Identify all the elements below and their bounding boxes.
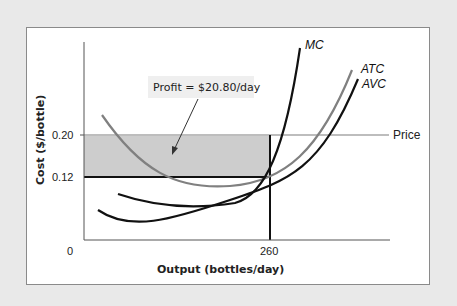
mc-curve bbox=[118, 48, 300, 206]
price-label: Price bbox=[393, 128, 421, 142]
x-tick-label-zero: 0 bbox=[67, 245, 73, 257]
x-axis-title: Output (bottles/day) bbox=[157, 263, 284, 276]
atc-label: ATC bbox=[360, 62, 384, 76]
y-axis-title: Cost ($/bottle) bbox=[34, 95, 47, 185]
y-tick-label-high: 0.20 bbox=[52, 129, 73, 141]
x-tick-label-q: 260 bbox=[260, 245, 278, 257]
avc-label: AVC bbox=[361, 77, 386, 91]
y-tick-label-low: 0.12 bbox=[52, 171, 73, 183]
profit-region bbox=[84, 135, 270, 177]
cost-curves-chart: MC ATC AVC Price Profit = $20.80/day 0.2… bbox=[0, 0, 457, 306]
profit-label: Profit = $20.80/day bbox=[153, 81, 261, 94]
mc-label: MC bbox=[305, 38, 324, 52]
